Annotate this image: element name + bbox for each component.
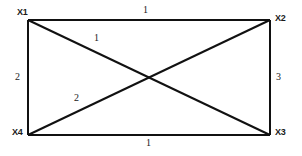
vertex-label-x1: X1	[17, 8, 28, 17]
edge-weight-right: 3	[276, 72, 281, 82]
edge-weight-bottom: 1	[146, 138, 151, 148]
graph-diagram: X1 X2 X3 X4 1 3 1 2 1 2	[0, 0, 302, 156]
edge-weight-top: 1	[143, 5, 148, 15]
graph-canvas	[0, 0, 302, 156]
edge-weight-diagonal-1: 1	[94, 33, 99, 43]
vertex-label-x2: X2	[275, 14, 286, 23]
vertex-label-x3: X3	[275, 128, 286, 137]
edge-weight-diagonal-2: 2	[74, 93, 79, 103]
vertex-label-x4: X4	[12, 128, 23, 137]
edge-weight-left: 2	[15, 72, 20, 82]
